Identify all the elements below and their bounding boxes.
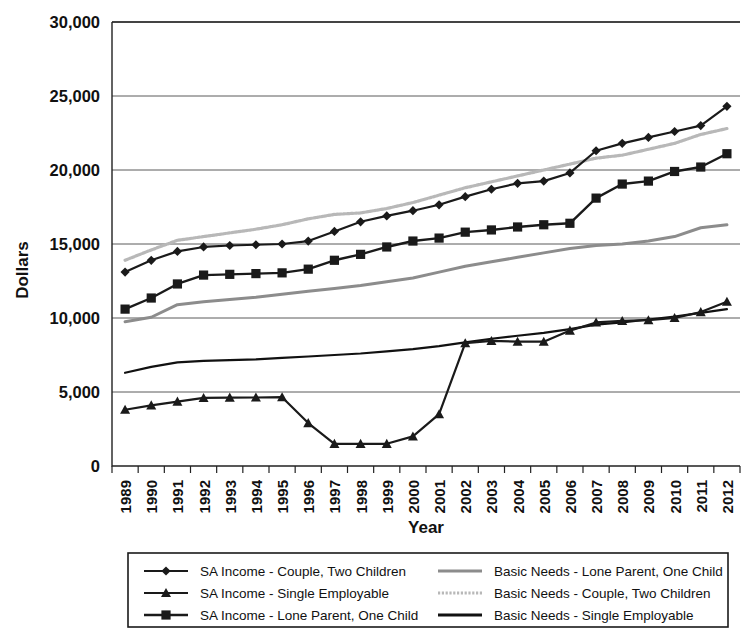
data-marker-diamond bbox=[513, 179, 522, 188]
x-tick-label: 2011 bbox=[693, 480, 710, 513]
data-marker-square bbox=[539, 220, 548, 229]
data-marker-triangle bbox=[434, 409, 444, 418]
data-marker-diamond bbox=[147, 256, 156, 265]
data-marker-square bbox=[225, 270, 234, 279]
x-tick-label: 1990 bbox=[143, 480, 160, 513]
x-tick-label: 1997 bbox=[326, 480, 343, 513]
data-marker-square bbox=[722, 149, 731, 158]
data-marker-square bbox=[513, 222, 522, 231]
data-marker-square bbox=[356, 250, 365, 259]
x-tick-label: 2002 bbox=[457, 480, 474, 513]
x-tick-label: 2007 bbox=[588, 480, 605, 513]
series-line bbox=[125, 106, 727, 272]
series-line bbox=[125, 309, 727, 373]
x-tick-label: 2006 bbox=[562, 480, 579, 513]
x-tick-label: 2008 bbox=[614, 480, 631, 513]
data-marker-square bbox=[382, 242, 391, 251]
legend-item[interactable] bbox=[434, 560, 724, 582]
y-tick-label: 0 bbox=[91, 457, 100, 475]
x-tick-label: 2003 bbox=[483, 480, 500, 513]
x-tick-label: 2001 bbox=[431, 480, 448, 513]
data-marker-square bbox=[434, 233, 443, 242]
legend-item[interactable] bbox=[140, 582, 430, 604]
data-marker-diamond bbox=[644, 133, 653, 142]
data-marker-diamond bbox=[225, 241, 234, 250]
line-chart: 30,00025,00020,00015,00010,0005,00001989… bbox=[0, 0, 753, 637]
data-marker-square bbox=[277, 268, 286, 277]
data-marker-triangle bbox=[722, 297, 732, 306]
legend-item[interactable] bbox=[140, 604, 430, 626]
y-tick-label: 5,000 bbox=[59, 383, 100, 401]
x-tick-label: 1994 bbox=[248, 479, 265, 513]
x-tick-label: 2000 bbox=[405, 480, 422, 513]
data-marker-diamond bbox=[251, 240, 260, 249]
data-marker-diamond bbox=[120, 268, 129, 277]
x-tick-label: 1992 bbox=[196, 480, 213, 513]
data-marker-square bbox=[644, 177, 653, 186]
series-basic-needs-single-employable bbox=[125, 309, 727, 373]
data-marker-diamond bbox=[670, 127, 679, 136]
x-tick-label: 1998 bbox=[353, 480, 370, 513]
data-marker-diamond bbox=[618, 139, 627, 148]
data-marker-square bbox=[251, 269, 260, 278]
series-sa-income-single-employable bbox=[120, 297, 732, 448]
x-tick-label: 2010 bbox=[667, 480, 684, 513]
y-tick-label: 20,000 bbox=[50, 161, 100, 179]
x-tick-label: 1995 bbox=[274, 480, 291, 513]
y-tick-label: 15,000 bbox=[50, 235, 100, 253]
chart-container: 30,00025,00020,00015,00010,0005,00001989… bbox=[0, 0, 753, 637]
x-tick-label: 1991 bbox=[169, 480, 186, 513]
data-marker-diamond bbox=[173, 247, 182, 256]
data-marker-square bbox=[461, 228, 470, 237]
series-sa-income-lone-parent-one-child bbox=[120, 149, 731, 314]
data-marker-diamond bbox=[277, 239, 286, 248]
series-sa-income-couple-two-children bbox=[120, 102, 731, 277]
x-tick-label: 2004 bbox=[510, 479, 527, 513]
data-marker-square bbox=[670, 167, 679, 176]
data-marker-square bbox=[120, 305, 129, 314]
data-marker-diamond bbox=[487, 185, 496, 194]
data-marker-square bbox=[565, 219, 574, 228]
legend: SA Income - Couple, Two ChildrenSA Incom… bbox=[128, 553, 728, 627]
data-marker-diamond bbox=[461, 192, 470, 201]
x-tick-label: 1989 bbox=[117, 480, 134, 513]
data-marker-diamond bbox=[408, 206, 417, 215]
data-marker-diamond bbox=[356, 217, 365, 226]
data-marker-square bbox=[408, 236, 417, 245]
y-tick-label: 10,000 bbox=[50, 309, 100, 327]
data-marker-square bbox=[304, 265, 313, 274]
y-tick-label: 30,000 bbox=[50, 13, 100, 31]
x-tick-label: 2009 bbox=[640, 480, 657, 513]
x-tick-label: 1999 bbox=[379, 480, 396, 513]
x-tick-label: 1996 bbox=[300, 480, 317, 513]
legend-item[interactable] bbox=[140, 560, 430, 582]
data-marker-square bbox=[330, 256, 339, 265]
data-marker-diamond bbox=[330, 227, 339, 236]
y-axis-title: Dollars bbox=[13, 241, 32, 299]
data-marker-square bbox=[696, 162, 705, 171]
data-marker-square bbox=[487, 225, 496, 234]
x-axis: 1989199019911992199319941995199619971998… bbox=[112, 466, 740, 513]
x-tick-label: 2005 bbox=[536, 480, 553, 513]
data-marker-square bbox=[173, 279, 182, 288]
series-line bbox=[125, 302, 727, 444]
legend-item[interactable] bbox=[434, 582, 724, 604]
data-marker-square bbox=[591, 194, 600, 203]
data-marker-diamond bbox=[382, 211, 391, 220]
y-tick-label: 25,000 bbox=[50, 87, 100, 105]
series-line bbox=[125, 154, 727, 309]
data-marker-square bbox=[199, 270, 208, 279]
data-marker-square bbox=[618, 179, 627, 188]
data-marker-diamond bbox=[434, 200, 443, 209]
x-tick-label: 1993 bbox=[222, 480, 239, 513]
data-marker-diamond bbox=[539, 177, 548, 186]
data-marker-square bbox=[147, 293, 156, 302]
x-tick-label: 2012 bbox=[719, 480, 736, 513]
legend-item[interactable] bbox=[434, 604, 724, 626]
x-axis-title: Year bbox=[408, 518, 444, 537]
